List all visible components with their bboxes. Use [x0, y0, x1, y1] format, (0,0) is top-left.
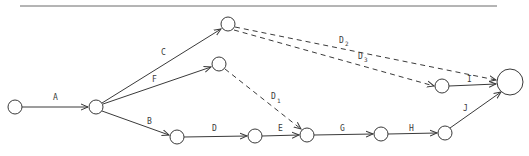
edge-d	[184, 136, 247, 137]
label-b: B	[147, 117, 152, 126]
node-8	[374, 127, 388, 141]
node-5	[170, 130, 184, 144]
edge-i	[449, 84, 496, 86]
node-6	[248, 129, 262, 143]
label-f: F	[152, 75, 157, 84]
edge-h	[388, 133, 437, 134]
edge-c	[102, 29, 221, 103]
label-d3: D 3	[358, 52, 368, 63]
svg-text:D: D	[271, 92, 276, 101]
label-c: C	[161, 48, 166, 57]
svg-text:D: D	[339, 36, 344, 45]
label-e: E	[278, 124, 283, 133]
edge-d3-dummy	[234, 30, 434, 86]
activity-network-diagram: A C F B D E G H J I D 1 D 2 D 3	[0, 0, 529, 156]
edge-d1-dummy	[225, 69, 301, 129]
node-2	[89, 100, 103, 114]
edge-f	[103, 67, 211, 104]
label-d1: D 1	[271, 92, 281, 104]
label-i: I	[467, 75, 472, 84]
label-g: G	[340, 124, 345, 133]
edge-d2-dummy	[235, 27, 496, 80]
edge-e	[262, 135, 299, 136]
node-3	[221, 17, 235, 31]
edge-j	[450, 92, 501, 128]
node-7	[300, 128, 314, 142]
label-a: A	[53, 93, 58, 102]
node-9	[438, 126, 452, 140]
node-4	[212, 57, 226, 71]
svg-text:3: 3	[364, 56, 368, 63]
edge-g	[314, 134, 373, 135]
node-11-end	[497, 69, 523, 95]
label-d: D	[212, 124, 217, 133]
label-j: J	[463, 104, 468, 113]
svg-text:2: 2	[345, 40, 349, 47]
node-10	[435, 79, 449, 93]
label-h: H	[409, 124, 414, 133]
svg-text:1: 1	[277, 97, 281, 104]
node-1-start	[8, 100, 22, 114]
svg-text:D: D	[358, 52, 363, 61]
label-d2: D 2	[339, 36, 349, 47]
edge-b	[102, 111, 169, 135]
